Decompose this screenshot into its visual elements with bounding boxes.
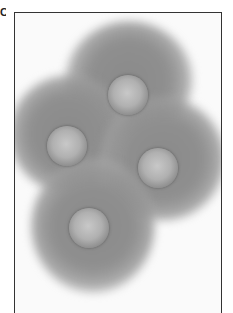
micrograph-frame bbox=[14, 12, 222, 313]
nucleus-right bbox=[138, 148, 178, 188]
nucleus-top bbox=[108, 75, 148, 115]
nucleus-left bbox=[47, 126, 87, 166]
panel-label: C bbox=[0, 6, 6, 18]
nucleus-bottom bbox=[69, 208, 109, 248]
